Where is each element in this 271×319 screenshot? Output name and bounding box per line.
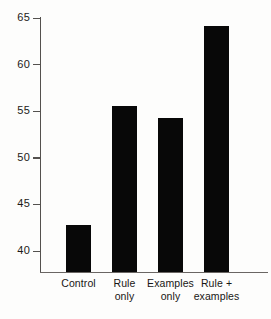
bar xyxy=(204,26,229,272)
bar xyxy=(112,106,137,272)
bar xyxy=(158,118,183,272)
category-label-line-2: examples xyxy=(184,290,250,303)
y-axis-tick-label: 55 xyxy=(0,105,30,116)
y-axis-tick-mark xyxy=(33,251,41,252)
y-axis-tick-mark xyxy=(33,204,41,205)
y-axis-tick-label: 40 xyxy=(0,245,30,256)
y-axis-tick-label: 65 xyxy=(0,12,30,23)
y-axis-tick-mark xyxy=(33,18,41,19)
y-axis-line xyxy=(40,17,41,273)
y-axis-tick-label: 60 xyxy=(0,59,30,70)
y-axis-tick-mark xyxy=(33,64,41,65)
x-axis-category-label: Rule +examples xyxy=(184,277,250,302)
y-axis-tick-mark xyxy=(33,157,41,158)
bar xyxy=(66,225,91,272)
x-axis-line xyxy=(40,272,268,273)
y-axis-tick-label: 45 xyxy=(0,198,30,209)
category-label-line-1: Rule + xyxy=(184,277,250,290)
y-axis-tick-mark xyxy=(33,111,41,112)
y-axis-tick-label: 50 xyxy=(0,152,30,163)
bar-chart: 656055504540 ControlRuleonlyExamplesonly… xyxy=(0,0,271,319)
